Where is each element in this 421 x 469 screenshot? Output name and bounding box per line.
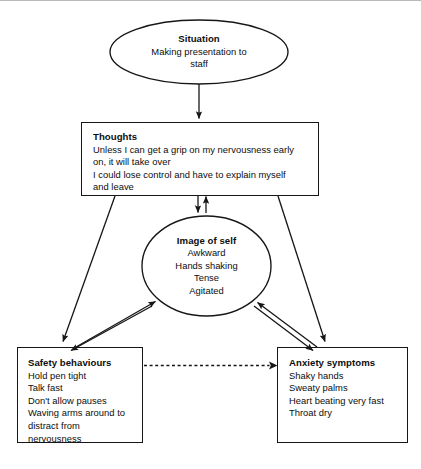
node-thoughts-line-3: I could lose control and have to explain… xyxy=(93,169,318,182)
node-anxiety-symptoms-line-1: Shaky hands xyxy=(289,370,407,383)
node-anxiety-symptoms[interactable]: Anxiety symptoms Shaky hands Sweaty palm… xyxy=(277,347,408,443)
node-thoughts-heading: Thoughts xyxy=(93,131,318,144)
node-image-of-self-line-3: Tense xyxy=(194,272,219,285)
node-safety-behaviours-line-2: Talk fast xyxy=(28,382,142,395)
connector-image-to-safety xyxy=(71,306,152,351)
node-thoughts-line-2: on, it will take over xyxy=(93,156,318,169)
node-image-of-self[interactable]: Image of self Awkward Hands shaking Tens… xyxy=(142,216,271,316)
node-safety-behaviours-line-1: Hold pen tight xyxy=(28,370,142,383)
node-safety-behaviours[interactable]: Safety behaviours Hold pen tight Talk fa… xyxy=(17,347,143,443)
connector-thoughts-to-safety xyxy=(63,196,115,342)
node-safety-behaviours-heading: Safety behaviours xyxy=(28,357,142,370)
node-image-of-self-line-1: Awkward xyxy=(187,247,225,260)
node-situation[interactable]: Situation Making presentation to staff xyxy=(110,20,288,84)
node-safety-behaviours-line-4: Waving arms around to xyxy=(28,407,142,420)
node-image-of-self-heading: Image of self xyxy=(177,235,236,248)
node-thoughts-line-1: Unless I can get a grip on my nervousnes… xyxy=(93,144,318,157)
node-situation-heading: Situation xyxy=(178,33,220,46)
node-situation-line-2: staff xyxy=(190,58,208,71)
node-safety-behaviours-line-3: Don't allow pauses xyxy=(28,395,142,408)
node-safety-behaviours-line-6: nervousness xyxy=(28,433,142,446)
node-anxiety-symptoms-line-4: Throat dry xyxy=(289,407,407,420)
node-safety-behaviours-line-5: distract from xyxy=(28,420,142,433)
node-anxiety-symptoms-line-2: Sweaty palms xyxy=(289,382,407,395)
node-anxiety-symptoms-line-3: Heart beating very fast xyxy=(289,395,407,408)
node-situation-line-1: Making presentation to xyxy=(151,46,246,59)
node-thoughts-line-4: and leave xyxy=(93,181,318,194)
node-thoughts[interactable]: Thoughts Unless I can get a grip on my n… xyxy=(81,122,319,196)
node-anxiety-symptoms-heading: Anxiety symptoms xyxy=(289,357,407,370)
connector-thoughts-to-anxiety xyxy=(278,196,325,342)
diagram-canvas: Situation Making presentation to staff T… xyxy=(0,0,421,469)
node-image-of-self-line-2: Hands shaking xyxy=(175,260,237,273)
node-image-of-self-line-4: Agitated xyxy=(189,285,224,298)
